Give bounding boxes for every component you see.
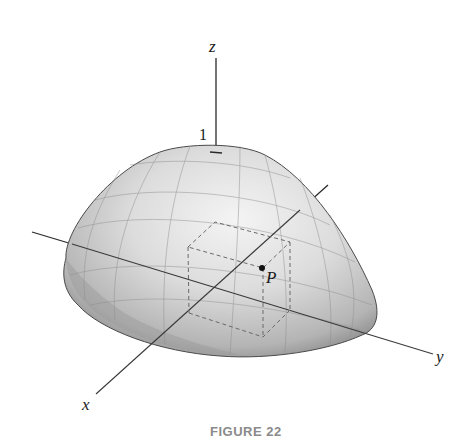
point-p	[259, 265, 265, 271]
y-axis-negative	[32, 232, 72, 244]
z-axis-tick-label: 1	[199, 126, 207, 143]
point-p-label: P	[265, 268, 276, 287]
figure-canvas: z 1 P y x FIGURE 22	[0, 0, 471, 442]
z-axis-label: z	[208, 37, 216, 56]
dome-surface	[64, 145, 377, 357]
dome-surface-diagram: z 1 P y x FIGURE 22	[0, 0, 471, 442]
figure-caption: FIGURE 22	[210, 424, 282, 439]
x-axis-label: x	[81, 395, 90, 414]
z-axis-tick	[210, 152, 222, 153]
y-axis-label: y	[434, 347, 444, 366]
